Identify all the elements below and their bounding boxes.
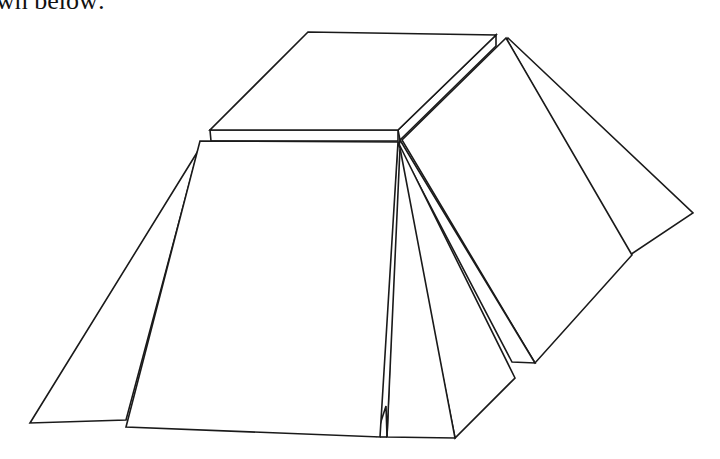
top-slab-front-edge [210, 130, 398, 141]
folded-paper-figure [0, 0, 720, 459]
front-panel [126, 141, 398, 437]
